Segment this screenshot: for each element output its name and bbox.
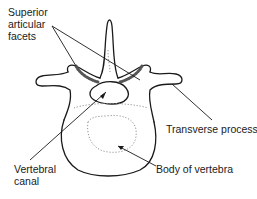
left-transverse-process [36,72,71,120]
label-line: articular [8,18,48,30]
label-line: facets [8,30,48,42]
label-line: canal [14,175,56,187]
label-body-of-vertebra: Body of vertebra [156,163,233,175]
spinous-process [100,20,118,78]
arrowhead-body [118,146,124,150]
leader-superior-left [52,26,76,66]
label-transverse-process: Transverse process [166,123,257,135]
label-vertebral-canal: Vertebral canal [14,163,56,187]
leader-transverse [172,84,212,120]
leader-superior-right [52,26,140,80]
right-transverse-process [149,72,182,122]
arrowhead-canal [100,92,106,99]
body-inner-dotted-outline [88,116,137,153]
label-line: Vertebral [14,163,56,175]
vertebral-body [61,120,155,176]
label-line: Superior [8,6,48,18]
leader-canal [30,92,106,160]
label-superior-articular-facets: Superior articular facets [8,6,48,42]
leader-body [118,146,156,166]
vertebra-diagram: Superior articular facets Transverse pro… [0,0,257,199]
